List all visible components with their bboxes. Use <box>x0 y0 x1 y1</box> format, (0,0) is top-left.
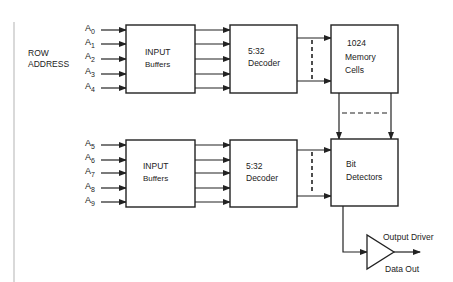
top-buffer-decoder-arrows <box>195 30 230 88</box>
top-decoder-ratio: 5:32 <box>248 46 265 56</box>
top-buffers-subtitle: Buffers <box>145 60 170 69</box>
detectors-label: Detectors <box>346 172 382 182</box>
top-decoder-label: Decoder <box>248 58 280 68</box>
block-diagram: ROW ADDRESS A0 A1 A2 A3 A4 INPUT Buffers… <box>0 0 453 282</box>
bottom-decoder-ratio: 5:32 <box>246 161 263 171</box>
bottom-address-arrows <box>101 145 126 202</box>
cells-label: Cells <box>345 65 364 75</box>
svg-text:A4: A4 <box>85 81 95 93</box>
svg-text:A5: A5 <box>85 138 95 150</box>
top-address-arrows <box>101 30 126 88</box>
row-label: ROW <box>28 48 49 58</box>
svg-text:A0: A0 <box>85 23 95 35</box>
bottom-buffer-decoder-arrows <box>195 145 230 202</box>
svg-text:A3: A3 <box>85 66 95 78</box>
svg-text:A7: A7 <box>85 166 95 178</box>
bottom-decoder-detector-arrows <box>297 150 331 196</box>
svg-text:A1: A1 <box>85 37 95 49</box>
svg-text:A6: A6 <box>85 152 95 164</box>
bottom-buffers-subtitle: Buffers <box>143 174 168 183</box>
bottom-decoder-label: Decoder <box>246 173 278 183</box>
bit-label: Bit <box>346 159 357 169</box>
output-driver-label: Output Driver <box>383 232 434 242</box>
output-path <box>343 206 367 252</box>
top-address-labels: A0 A1 A2 A3 A4 <box>85 23 95 93</box>
memory-detector-arrows <box>339 93 391 139</box>
top-decoder-memory-arrows <box>297 38 331 81</box>
memory-label: Memory <box>345 52 376 62</box>
data-out-label: Data Out <box>385 264 420 274</box>
address-label: ADDRESS <box>28 59 69 69</box>
bottom-address-labels: A5 A6 A7 A8 A9 <box>85 138 95 207</box>
bottom-buffers-title: INPUT <box>143 161 169 171</box>
memory-size: 1024 <box>347 38 366 48</box>
top-input-buffers-box <box>126 25 195 93</box>
top-buffers-title: INPUT <box>145 47 171 57</box>
svg-text:A2: A2 <box>85 51 95 63</box>
svg-text:A9: A9 <box>85 195 95 207</box>
svg-text:A8: A8 <box>85 181 95 193</box>
